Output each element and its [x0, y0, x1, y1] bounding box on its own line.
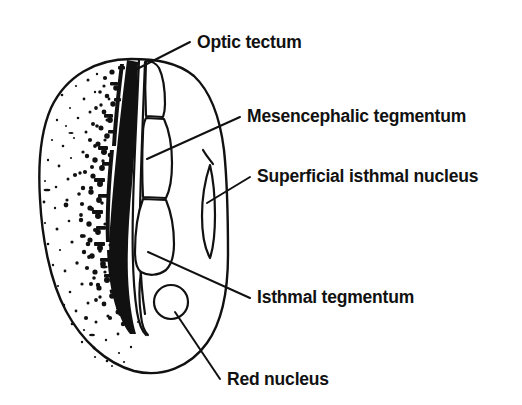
label-optic-tectum: Optic tectum — [197, 32, 302, 52]
label-mesencephalic-tegmentum: Mesencephalic tegmentum — [247, 106, 466, 126]
figure-canvas: Optic tectum Mesencephalic tegmentum Sup… — [0, 0, 522, 405]
anatomical-figure: Optic tectum Mesencephalic tegmentum Sup… — [0, 0, 522, 405]
label-red-nucleus: Red nucleus — [227, 369, 329, 389]
mesencephalic-tegmentum-region — [142, 118, 172, 198]
label-isthmal-tegmentum: Isthmal tegmentum — [257, 287, 414, 307]
label-superficial-isthmal-nucleus: Superficial isthmal nucleus — [257, 166, 479, 186]
red-nucleus-region — [154, 285, 188, 319]
label-texts: Optic tectum Mesencephalic tegmentum Sup… — [197, 32, 479, 389]
